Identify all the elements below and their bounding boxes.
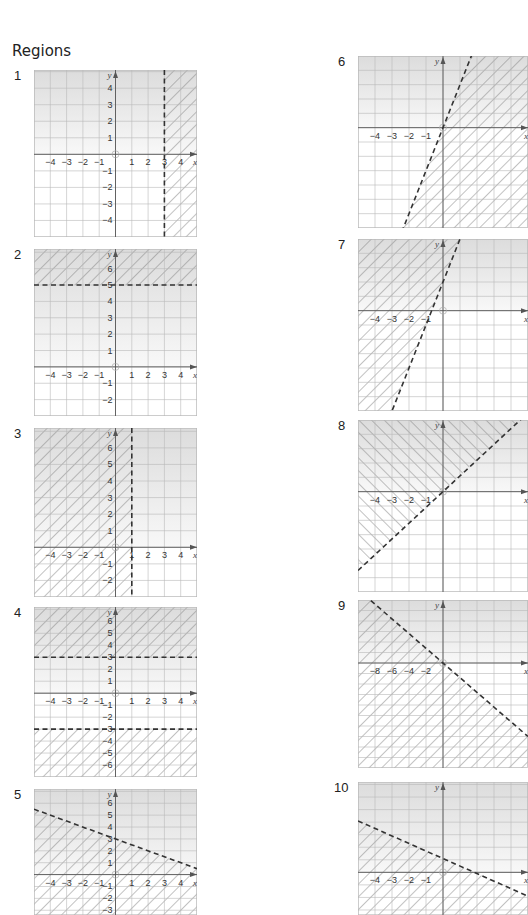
graph-number: 9 — [338, 598, 345, 613]
svg-text:2: 2 — [107, 846, 112, 856]
svg-text:y: y — [107, 249, 112, 259]
svg-text:−1: −1 — [102, 166, 112, 176]
svg-text:−8: −8 — [370, 666, 380, 676]
svg-text:−3: −3 — [61, 550, 71, 560]
svg-text:1: 1 — [107, 133, 112, 143]
svg-text:1: 1 — [107, 676, 112, 686]
svg-text:4: 4 — [178, 370, 183, 380]
svg-text:6: 6 — [107, 443, 112, 453]
svg-text:−3: −3 — [387, 131, 397, 141]
svg-text:x: x — [192, 696, 197, 706]
svg-text:x: x — [192, 157, 197, 167]
svg-text:−2: −2 — [102, 712, 112, 722]
svg-text:−1: −1 — [102, 378, 112, 388]
svg-text:−2: −2 — [404, 495, 414, 505]
svg-text:x: x — [192, 878, 197, 888]
inequality-graph-5: yx−4−3−2−11234654321−1−2−3 — [34, 789, 197, 915]
svg-text:4: 4 — [178, 157, 183, 167]
svg-text:1: 1 — [107, 858, 112, 868]
svg-text:−2: −2 — [404, 131, 414, 141]
svg-text:−1: −1 — [421, 131, 431, 141]
svg-text:1: 1 — [129, 157, 134, 167]
svg-text:−2: −2 — [102, 182, 112, 192]
svg-text:y: y — [434, 782, 439, 792]
svg-text:−3: −3 — [387, 495, 397, 505]
svg-text:−3: −3 — [61, 696, 71, 706]
svg-text:−3: −3 — [61, 370, 71, 380]
svg-text:2: 2 — [107, 664, 112, 674]
graph-number: 6 — [338, 54, 345, 69]
svg-text:−2: −2 — [102, 395, 112, 405]
svg-text:−4: −4 — [45, 370, 55, 380]
svg-text:−4: −4 — [102, 215, 112, 225]
svg-text:−5: −5 — [102, 748, 112, 758]
svg-text:1: 1 — [129, 878, 134, 888]
svg-text:5: 5 — [107, 810, 112, 820]
graph-number: 10 — [334, 780, 348, 795]
svg-text:−1: −1 — [102, 559, 112, 569]
svg-text:y: y — [434, 420, 439, 430]
inequality-graph-10: yx−4−3−2−1 — [358, 782, 528, 915]
svg-text:−2: −2 — [404, 314, 414, 324]
svg-text:−2: −2 — [78, 370, 88, 380]
svg-text:−4: −4 — [370, 131, 380, 141]
page-title: Regions — [12, 42, 71, 60]
svg-text:x: x — [523, 666, 528, 676]
svg-text:y: y — [434, 56, 439, 66]
inequality-graph-2: yx−4−3−2−11234654321−1−2 — [34, 249, 197, 416]
svg-text:1: 1 — [107, 526, 112, 536]
inequality-graph-1: yx−4−3−2−112344321−1−2−3−4 — [34, 70, 197, 237]
inequality-graph-9: yx−8−6−4−2 — [358, 600, 528, 768]
svg-text:4: 4 — [178, 550, 183, 560]
svg-text:−1: −1 — [102, 881, 112, 891]
svg-text:x: x — [192, 370, 197, 380]
graph-number: 3 — [14, 426, 21, 441]
svg-text:−2: −2 — [78, 157, 88, 167]
svg-text:−3: −3 — [387, 875, 397, 885]
svg-text:2: 2 — [107, 116, 112, 126]
graph-number: 5 — [14, 787, 21, 802]
inequality-graph-4: yx−4−3−2−11234654321−1−2−3−4−5−6 — [34, 607, 197, 777]
svg-text:−3: −3 — [102, 905, 112, 915]
svg-text:3: 3 — [162, 696, 167, 706]
svg-text:3: 3 — [162, 550, 167, 560]
graph-number: 4 — [14, 605, 21, 620]
graph-number: 7 — [338, 237, 345, 252]
svg-text:−1: −1 — [421, 875, 431, 885]
svg-text:4: 4 — [107, 83, 112, 93]
svg-text:−4: −4 — [370, 495, 380, 505]
inequality-graph-6: yx−4−3−2−1 — [358, 56, 528, 228]
inequality-graph-7: yx−4−3−2−1 — [358, 239, 528, 411]
svg-text:2: 2 — [107, 509, 112, 519]
svg-text:x: x — [523, 875, 528, 885]
svg-text:−2: −2 — [78, 878, 88, 888]
svg-text:−4: −4 — [102, 736, 112, 746]
svg-text:y: y — [434, 600, 439, 610]
svg-text:1: 1 — [107, 346, 112, 356]
svg-text:3: 3 — [107, 493, 112, 503]
svg-text:4: 4 — [178, 878, 183, 888]
svg-text:3: 3 — [107, 100, 112, 110]
svg-text:5: 5 — [107, 628, 112, 638]
svg-text:−4: −4 — [404, 666, 414, 676]
svg-text:−2: −2 — [421, 666, 431, 676]
svg-text:x: x — [192, 550, 197, 560]
svg-text:3: 3 — [107, 834, 112, 844]
graph-number: 1 — [14, 68, 21, 83]
svg-text:1: 1 — [129, 696, 134, 706]
svg-text:3: 3 — [162, 370, 167, 380]
svg-text:4: 4 — [107, 476, 112, 486]
svg-text:5: 5 — [107, 459, 112, 469]
svg-text:−1: −1 — [102, 700, 112, 710]
graph-number: 2 — [14, 247, 21, 262]
svg-text:6: 6 — [107, 616, 112, 626]
svg-text:y: y — [107, 428, 112, 438]
svg-text:−2: −2 — [78, 550, 88, 560]
svg-text:−3: −3 — [61, 157, 71, 167]
svg-text:−6: −6 — [387, 666, 397, 676]
graph-number: 8 — [338, 418, 345, 433]
svg-text:2: 2 — [146, 878, 151, 888]
svg-text:y: y — [107, 70, 112, 80]
svg-text:−2: −2 — [102, 893, 112, 903]
svg-text:−4: −4 — [370, 314, 380, 324]
